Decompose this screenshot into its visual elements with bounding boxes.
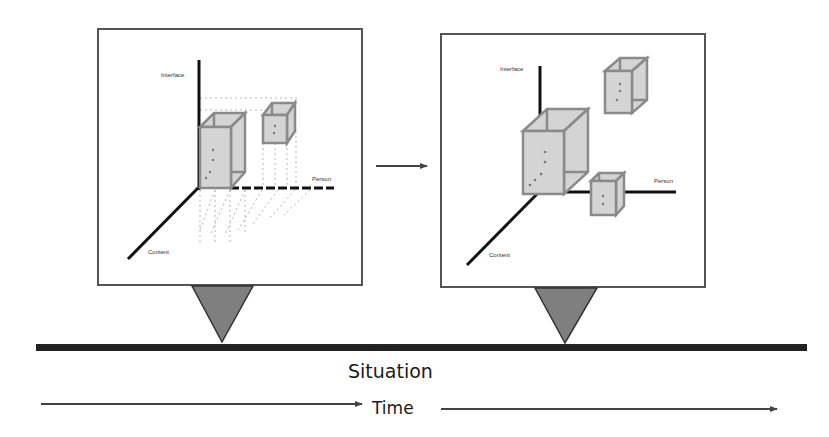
person-axis-label: Person [312, 176, 331, 182]
person-axis-label: Person [654, 178, 673, 184]
panel-before: Interface Person Content [98, 29, 362, 285]
content-axis-label: Content [489, 252, 510, 258]
cube-small [591, 173, 624, 215]
time-label: Time [371, 398, 414, 418]
cube-large [523, 109, 588, 194]
situation-time-diagram: Interface Person Content [0, 0, 829, 437]
pointer-triangle-after [535, 288, 597, 343]
panel-after: Interface Person Content [441, 34, 705, 287]
situation-timeline [36, 344, 807, 351]
cube-large [200, 113, 245, 188]
interface-axis-label: Interface [161, 72, 185, 78]
cube-upper [605, 58, 647, 113]
content-axis-label: Content [148, 249, 169, 255]
interface-axis-label: Interface [500, 66, 524, 72]
situation-label: Situation [348, 360, 433, 382]
cube-small [263, 103, 295, 143]
pointer-triangle-before [192, 286, 253, 342]
